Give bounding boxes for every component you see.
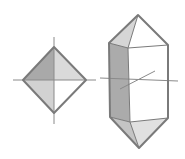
crystal-diagram — [0, 0, 185, 159]
prism-side-face-front — [128, 45, 168, 122]
prism-crystal — [100, 15, 178, 148]
octahedron — [13, 37, 96, 124]
prism-side-face-left — [109, 43, 130, 122]
